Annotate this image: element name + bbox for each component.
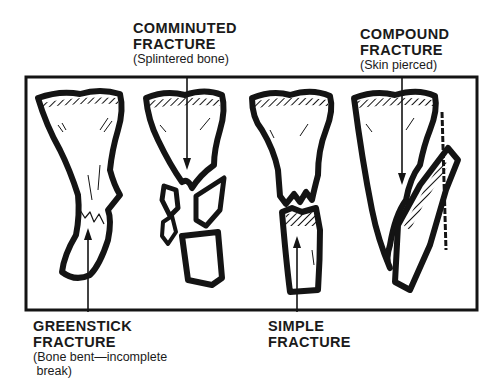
greenstick-label: GREENSTICK FRACTURE (Bone bent—incomplet…: [33, 318, 167, 378]
greenstick-bone: [38, 91, 122, 278]
compound-label: COMPOUND FRACTURE (Skin pierced): [360, 26, 449, 72]
skin-line: [442, 112, 446, 250]
compound-bone: [354, 92, 458, 290]
simple-bone: [252, 92, 331, 292]
simple-label: SIMPLE FRACTURE: [268, 318, 351, 350]
comminuted-label: COMMINUTED FRACTURE (Splintered bone): [133, 20, 237, 66]
comminuted-bone: [146, 92, 224, 286]
